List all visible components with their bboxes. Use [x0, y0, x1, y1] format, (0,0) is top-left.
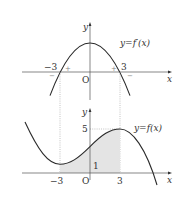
sign-left-of-neg3: −: [49, 72, 55, 80]
top-x-label: x: [167, 74, 172, 84]
bottom-tick-5: 5: [82, 124, 88, 134]
top-x-axis-arrow-icon: [168, 71, 172, 74]
bottom-graph: y x O −3 3 5 1 y=f(x): [22, 107, 172, 186]
bottom-x-axis-arrow-icon: [168, 172, 172, 175]
figure: y x O −3 3 y=f′(x) − + + − y x O −3 3 5: [0, 0, 181, 198]
sign-right-of-pos3: −: [127, 72, 133, 80]
bottom-y-label: y: [81, 107, 88, 117]
top-tick-pos3: 3: [121, 62, 127, 72]
top-y-axis-arrow-icon: [89, 22, 92, 26]
sign-right-of-neg3: +: [65, 65, 71, 73]
bottom-tick-pos3: 3: [117, 176, 123, 186]
bottom-curve-label: y=f(x): [133, 123, 163, 133]
bottom-x-label: x: [167, 175, 172, 185]
bottom-tick-neg3: −3: [50, 176, 64, 186]
top-y-label: y: [82, 22, 89, 32]
top-curve-label: y=f′(x): [119, 38, 151, 48]
top-origin-label: O: [82, 75, 89, 85]
top-graph: y x O −3 3 y=f′(x) − + + −: [22, 22, 172, 100]
bottom-y-axis-arrow-icon: [89, 108, 92, 112]
top-tick-neg3: −3: [44, 62, 58, 72]
sign-left-of-pos3: +: [111, 65, 117, 73]
bottom-tick-1: 1: [93, 161, 99, 171]
bottom-origin-label: O: [82, 176, 89, 186]
